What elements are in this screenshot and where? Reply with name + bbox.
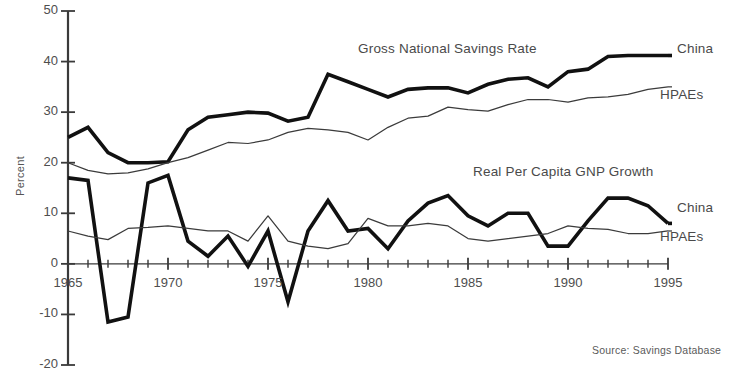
y-tick-label-40: 40 — [16, 53, 58, 68]
chart-plot-area — [0, 0, 732, 378]
series-line-china-growth — [68, 175, 668, 322]
x-tick-label-1995: 1995 — [638, 275, 698, 290]
source-note: Source: Savings Database — [592, 344, 721, 356]
annotation-savings-rate: Gross National Savings Rate — [358, 41, 537, 56]
x-tick-label-1965: 1965 — [38, 275, 98, 290]
y-tick-label-10: 10 — [16, 204, 58, 219]
x-tick-label-1985: 1985 — [438, 275, 498, 290]
x-tick-label-1970: 1970 — [138, 275, 198, 290]
x-tick-label-1980: 1980 — [338, 275, 398, 290]
x-tick-label-1975: 1975 — [238, 275, 298, 290]
y-tick-label--10: -10 — [16, 305, 58, 320]
series-label-hpaes-savings: HPAEs — [660, 87, 704, 102]
series-label-china-growth: China — [677, 200, 713, 215]
series-label-china-savings: China — [677, 41, 713, 56]
series-line-china-savings — [68, 56, 668, 163]
y-tick-label-0: 0 — [16, 255, 58, 270]
y-tick-label--20: -20 — [16, 356, 58, 371]
y-tick-label-50: 50 — [16, 2, 58, 17]
series-label-hpaes-growth: HPAEs — [660, 229, 704, 244]
annotation-gnp-growth: Real Per Capita GNP Growth — [473, 164, 654, 179]
y-tick-label-30: 30 — [16, 103, 58, 118]
y-tick-label-20: 20 — [16, 154, 58, 169]
x-tick-label-1990: 1990 — [538, 275, 598, 290]
savings-growth-chart-figure: Percent 50403020100-10-20 19651970197519… — [0, 0, 732, 378]
